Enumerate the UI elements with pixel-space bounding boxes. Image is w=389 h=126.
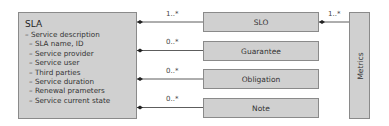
multiplicity-note: 0..* <box>166 95 178 103</box>
sla-attribute: – Third parties <box>25 68 130 77</box>
multiplicity-metrics: 1..* <box>328 10 340 18</box>
composition-diamond-slo <box>137 20 143 24</box>
guarantee-label: Guarantee <box>241 47 281 56</box>
sla-title: SLA <box>25 18 130 30</box>
sla-attribute: – Renewal prameters <box>25 86 130 95</box>
multiplicity-slo: 1..* <box>166 10 178 18</box>
sla-attribute: – Service user <box>25 58 130 67</box>
composition-diamond-guarantee <box>137 49 143 53</box>
sla-diagram: SLA – Service description – SLA name, ID… <box>0 0 389 126</box>
slo-class-box: SLO <box>203 12 319 32</box>
sla-attribute: – Service duration <box>25 77 130 86</box>
multiplicity-obligation: 0..* <box>166 67 178 75</box>
sla-attribute: – Service provider <box>25 49 130 58</box>
sla-attribute: – Service current state <box>25 96 130 105</box>
metrics-label: Metrics <box>355 52 364 79</box>
composition-diamond-obligation <box>137 77 143 81</box>
composition-diamond-metrics <box>319 20 325 24</box>
multiplicity-guarantee: 0..* <box>166 38 178 46</box>
note-label: Note <box>252 104 270 113</box>
sla-attribute: – SLA name, ID <box>25 39 130 48</box>
composition-diamond-note <box>137 106 143 110</box>
guarantee-class-box: Guarantee <box>203 41 319 61</box>
slo-label: SLO <box>254 18 269 27</box>
sla-class-box: SLA – Service description – SLA name, ID… <box>18 12 137 119</box>
note-class-box: Note <box>203 98 319 118</box>
sla-attribute: – Service description <box>25 30 130 39</box>
obligation-label: Obligation <box>242 75 281 84</box>
metrics-class-box: Metrics <box>349 12 370 119</box>
obligation-class-box: Obligation <box>203 69 319 89</box>
